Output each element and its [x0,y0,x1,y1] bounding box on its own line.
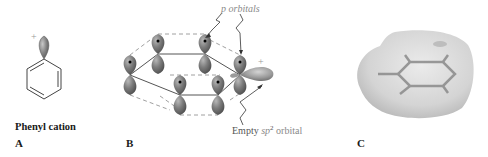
electrostatic-potential-map [0,0,488,157]
panel-label-c: C [357,137,365,149]
